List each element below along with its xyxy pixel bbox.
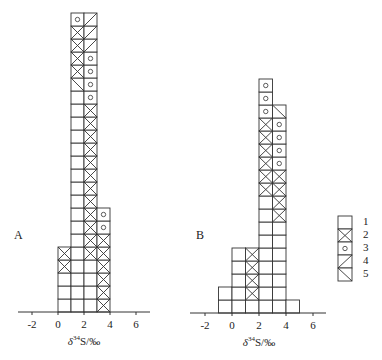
legend-label: 3 — [363, 241, 369, 253]
x-tick-label: -2 — [27, 318, 36, 330]
histogram-bin — [259, 79, 273, 313]
legend-swatch-diagonal-up — [338, 255, 352, 268]
histogram-bin — [286, 300, 300, 313]
panel-b — [190, 79, 326, 316]
legend-label: 5 — [363, 267, 369, 279]
x-tick-label: 6 — [133, 318, 139, 330]
panel-label-a: A — [14, 228, 23, 243]
x-axis-title: δ34S/‰ — [243, 335, 275, 348]
histogram-bin — [219, 287, 233, 313]
x-tick-label: 0 — [55, 318, 61, 330]
legend-swatch-empty — [338, 216, 352, 229]
histogram-bin — [273, 105, 287, 313]
legend — [338, 216, 352, 281]
histogram-bin — [71, 13, 84, 312]
histogram-figure — [0, 0, 382, 360]
x-tick-label: 4 — [283, 319, 289, 331]
panel-a — [18, 13, 150, 315]
legend-label: 1 — [363, 215, 369, 227]
panel-label-b: B — [196, 228, 204, 243]
histogram-bin — [58, 247, 71, 312]
legend-swatch-circle — [338, 242, 352, 255]
legend-label: 4 — [363, 254, 369, 266]
histogram-bin — [246, 248, 260, 313]
x-tick-label: 4 — [107, 318, 113, 330]
legend-label: 2 — [363, 228, 369, 240]
x-tick-label: 6 — [310, 319, 316, 331]
x-tick-label: 2 — [81, 318, 87, 330]
histogram-bin — [84, 13, 97, 312]
legend-swatch-cross — [338, 229, 352, 242]
legend-swatch-diagonal-down — [338, 268, 352, 281]
x-tick-label: 0 — [229, 319, 235, 331]
x-tick-label: -2 — [200, 319, 209, 331]
x-axis-title: δ34S/‰ — [68, 334, 100, 347]
histogram-bin — [97, 208, 110, 312]
x-tick-label: 2 — [256, 319, 262, 331]
histogram-bin — [232, 248, 246, 313]
